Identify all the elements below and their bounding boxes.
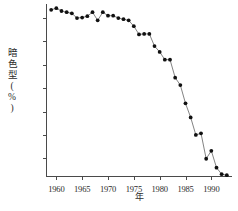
data-point bbox=[153, 44, 157, 48]
y-tick-mark bbox=[43, 41, 46, 42]
y-tick-mark bbox=[43, 112, 46, 113]
y-tick-mark bbox=[43, 88, 46, 89]
data-point bbox=[142, 32, 146, 36]
data-point bbox=[199, 131, 203, 135]
data-point bbox=[101, 10, 105, 14]
data-point bbox=[70, 11, 74, 15]
data-point bbox=[111, 14, 115, 18]
data-point bbox=[96, 18, 100, 22]
data-point bbox=[184, 101, 188, 105]
x-tick-mark bbox=[82, 177, 83, 180]
data-point bbox=[189, 115, 193, 119]
data-point bbox=[106, 14, 110, 18]
data-point bbox=[215, 166, 219, 170]
data-point bbox=[173, 76, 177, 80]
x-tick-mark bbox=[56, 177, 57, 180]
data-point bbox=[158, 50, 162, 54]
data-point bbox=[194, 133, 198, 137]
data-point bbox=[178, 83, 182, 87]
data-point bbox=[168, 58, 172, 62]
x-tick-mark bbox=[160, 177, 161, 180]
y-axis-label: 暗色型(%) bbox=[4, 48, 17, 114]
data-point bbox=[75, 16, 79, 20]
y-tick-mark bbox=[43, 65, 46, 66]
data-point bbox=[91, 10, 95, 14]
data-point bbox=[49, 8, 53, 12]
data-point bbox=[137, 32, 141, 36]
chart-figure: 暗色型(%) 30405060708090 196019651970197519… bbox=[0, 0, 238, 211]
data-point bbox=[204, 157, 208, 161]
data-point bbox=[60, 9, 64, 13]
data-point bbox=[80, 16, 84, 20]
data-series-line bbox=[46, 4, 232, 177]
x-tick-mark bbox=[108, 177, 109, 180]
data-point bbox=[85, 14, 89, 18]
y-tick-mark bbox=[43, 135, 46, 136]
x-tick-mark bbox=[134, 177, 135, 180]
data-point bbox=[65, 10, 69, 14]
data-point bbox=[122, 17, 126, 21]
data-point bbox=[132, 24, 136, 28]
y-tick-mark bbox=[43, 18, 46, 19]
data-point bbox=[225, 173, 229, 177]
y-tick-mark bbox=[43, 158, 46, 159]
data-point bbox=[54, 6, 58, 10]
data-point bbox=[220, 172, 224, 176]
data-point bbox=[147, 32, 151, 36]
x-tick-mark bbox=[186, 177, 187, 180]
data-point bbox=[163, 58, 167, 62]
x-tick-mark bbox=[211, 177, 212, 180]
plot-area: 30405060708090 1960196519701975198019851… bbox=[46, 4, 232, 177]
data-point bbox=[127, 18, 131, 22]
data-point bbox=[116, 16, 120, 20]
x-axis-label: 年 bbox=[46, 193, 232, 202]
data-point bbox=[209, 149, 213, 153]
